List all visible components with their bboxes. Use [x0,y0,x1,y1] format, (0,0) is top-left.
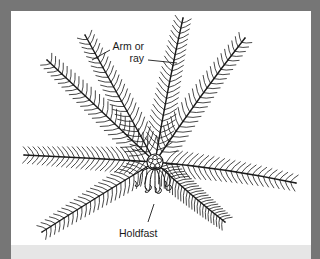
label-arm-line2: ray [108,52,144,64]
arm-upper-left-outer [41,53,155,162]
label-leader-lines [92,50,177,222]
label-arm-line1: Arm or [108,40,144,52]
crinoid-illustration [0,0,320,259]
arm-upper-right-inner [145,15,191,162]
label-arm-or-ray: Arm or ray [108,40,144,64]
crinoid-arms [23,15,299,239]
holdfast-leader [148,204,154,222]
arm-upper-right-outer [155,33,252,163]
label-holdfast: Holdfast [119,227,158,239]
arm-right [155,151,298,192]
arm-leader-right [148,60,177,63]
